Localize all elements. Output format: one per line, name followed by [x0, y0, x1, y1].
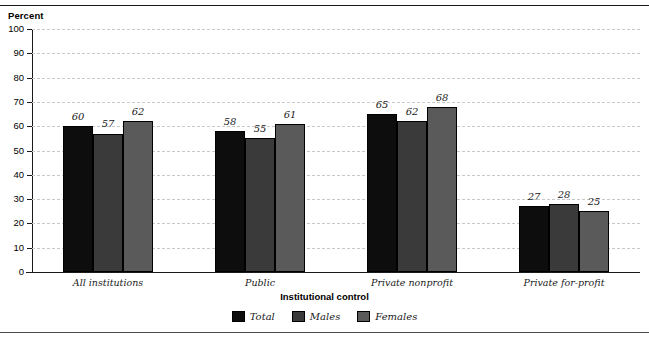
bar-value-label: 57 — [102, 118, 115, 129]
bar — [579, 211, 609, 272]
y-axis-tick — [27, 78, 32, 79]
y-axis-tick-label: 70 — [0, 96, 24, 107]
bar — [549, 204, 579, 272]
bar — [93, 134, 123, 273]
legend-label: Males — [310, 311, 340, 322]
y-axis-tick — [27, 102, 32, 103]
legend-swatch — [232, 311, 245, 322]
chart-plot-area: 0102030405060708090100605762All institut… — [32, 29, 640, 272]
bar-value-label: 27 — [528, 191, 541, 202]
legend-swatch — [357, 311, 370, 322]
bar — [245, 138, 275, 272]
y-axis-tick — [27, 223, 32, 224]
x-axis-category-label: All institutions — [73, 277, 143, 288]
gridline — [32, 78, 640, 79]
legend-item: Males — [292, 311, 340, 322]
bar-value-label: 58 — [224, 116, 237, 127]
bar-value-label: 61 — [284, 109, 297, 120]
bar-value-label: 68 — [436, 92, 449, 103]
bar-value-label: 62 — [406, 106, 419, 117]
top-divider — [0, 5, 649, 6]
bar-value-label: 25 — [588, 196, 601, 207]
bar-value-label: 65 — [376, 99, 389, 110]
bottom-divider — [0, 332, 649, 333]
y-axis-tick-label: 100 — [0, 23, 24, 34]
x-axis-category-label: Private nonprofit — [371, 277, 453, 288]
y-axis-tick — [27, 248, 32, 249]
bar — [397, 121, 427, 272]
legend-item: Total — [232, 311, 275, 322]
legend-label: Females — [375, 311, 417, 322]
y-axis-tick-label: 30 — [0, 193, 24, 204]
bar — [275, 124, 305, 272]
bar — [519, 206, 549, 272]
gridline — [32, 29, 640, 30]
bar-value-label: 55 — [254, 123, 267, 134]
legend-item: Females — [357, 311, 417, 322]
y-axis-tick-label: 90 — [0, 47, 24, 58]
bar — [367, 114, 397, 272]
y-axis-tick — [27, 126, 32, 127]
y-axis-tick-label: 20 — [0, 217, 24, 228]
bar — [63, 126, 93, 272]
y-axis-tick-label: 40 — [0, 169, 24, 180]
bar — [215, 131, 245, 272]
y-axis-tick — [27, 199, 32, 200]
bar — [123, 121, 153, 272]
y-axis-tick — [27, 151, 32, 152]
y-axis-tick — [27, 175, 32, 176]
x-axis-title: Institutional control — [0, 291, 649, 302]
y-axis-tick-label: 80 — [0, 72, 24, 83]
y-axis-tick-label: 50 — [0, 145, 24, 156]
bar-value-label: 60 — [72, 111, 85, 122]
y-axis-tick-label: 10 — [0, 242, 24, 253]
legend-swatch — [292, 311, 305, 322]
x-axis-category-label: Private for-profit — [524, 277, 605, 288]
y-axis-tick — [27, 272, 32, 273]
y-axis-tick — [27, 29, 32, 30]
bar — [427, 107, 457, 272]
chart-legend: TotalMalesFemales — [0, 311, 649, 322]
y-axis-unit-label: Percent — [8, 10, 44, 21]
bar-value-label: 28 — [558, 189, 571, 200]
legend-label: Total — [250, 311, 275, 322]
y-axis-tick-label: 0 — [0, 266, 24, 277]
y-axis-tick-label: 60 — [0, 120, 24, 131]
gridline — [32, 102, 640, 103]
bar-value-label: 62 — [132, 106, 145, 117]
x-axis-category-label: Public — [245, 277, 275, 288]
x-axis-baseline — [26, 272, 640, 273]
y-axis-tick — [27, 53, 32, 54]
gridline — [32, 53, 640, 54]
